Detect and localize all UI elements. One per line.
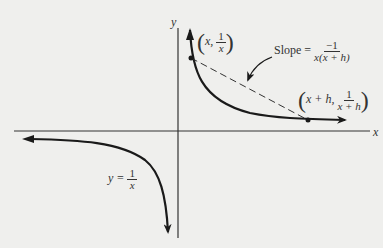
point-2-label: (x + h, 1x + h) bbox=[298, 88, 369, 112]
diagram-canvas bbox=[0, 0, 383, 248]
slope-pointer-arrow bbox=[248, 57, 272, 80]
point-2 bbox=[306, 118, 311, 123]
point-1-label: (x, 1x) bbox=[197, 30, 234, 54]
y-axis-label: y bbox=[171, 16, 176, 28]
point-1 bbox=[189, 56, 194, 61]
curve-left-branch bbox=[30, 139, 168, 232]
curve-equation-label: y = 1x bbox=[108, 168, 137, 191]
x-axis-label: x bbox=[373, 126, 378, 138]
slope-label: Slope = −1x(x + h) bbox=[274, 40, 350, 63]
